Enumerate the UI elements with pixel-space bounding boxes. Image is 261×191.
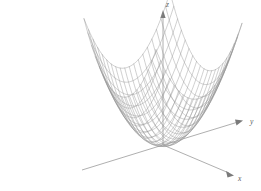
axis-label-y: y bbox=[249, 117, 254, 126]
plot-canvas: y x z bbox=[0, 0, 261, 191]
paraboloid-figure: y x z bbox=[0, 0, 261, 191]
axis-label-z: z bbox=[165, 0, 169, 9]
axis-label-x: x bbox=[237, 174, 242, 183]
